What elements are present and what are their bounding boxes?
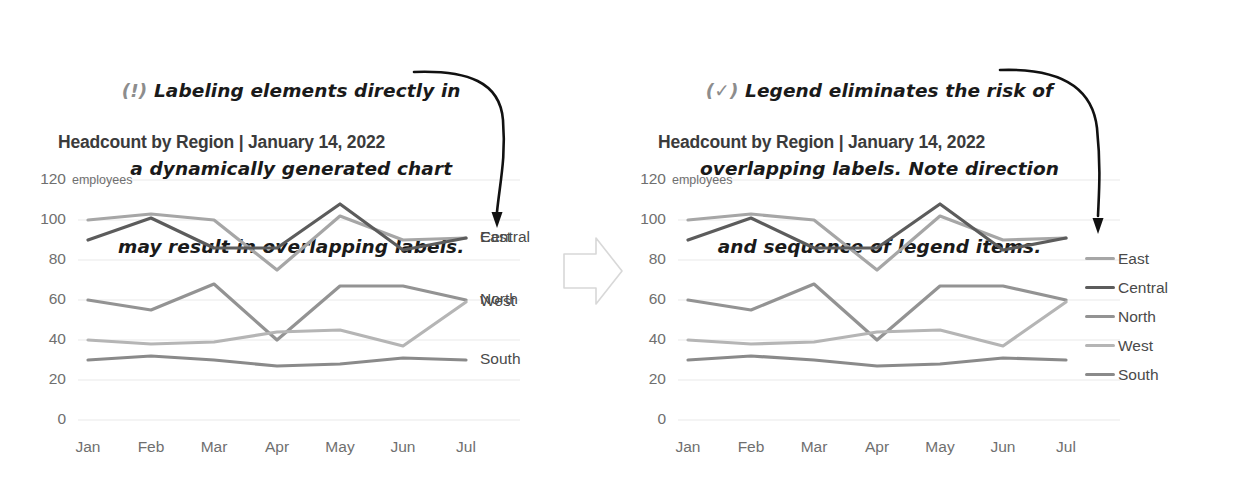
legend-item-north[interactable]: North [1085,302,1168,331]
legend-item-west[interactable]: West [1085,331,1168,360]
x-axis-tick-label: Jul [439,438,493,456]
series-line-central [688,204,1066,250]
series-line-east [688,214,1066,270]
chart-title-left: Headcount by Region | January 14, 2022 [58,132,385,153]
legend-swatch-icon [1085,344,1115,347]
chart-legend: EastCentralNorthWestSouth [1085,244,1168,389]
x-axis-tick-label: Apr [850,438,904,456]
series-line-south [88,356,466,366]
x-axis-tick-label: Mar [787,438,841,456]
x-axis-tick-label: Jun [376,438,430,456]
y-axis-tick-label: 120 [20,170,66,188]
y-axis-tick-label: 60 [20,290,66,308]
x-axis-tick-label: Feb [724,438,778,456]
legend-swatch-icon [1085,257,1115,260]
direct-label-south: South [480,350,521,368]
y-axis-tick-label: 80 [620,250,666,268]
legend-swatch-icon [1085,373,1115,376]
direct-label-central: Central [480,228,530,246]
x-axis-tick-label: Jul [1039,438,1093,456]
x-axis-tick-label: Mar [187,438,241,456]
chart-title-right: Headcount by Region | January 14, 2022 [658,132,985,153]
y-axis-tick-label: 40 [20,330,66,348]
legend-item-east[interactable]: East [1085,244,1168,273]
x-axis-tick-label: Jan [61,438,115,456]
x-axis-tick-label: Jun [976,438,1030,456]
x-axis-tick-label: May [913,438,967,456]
legend-label: North [1118,308,1156,326]
y-axis-tick-label: 60 [620,290,666,308]
y-axis-tick-label: 0 [620,410,666,428]
legend-swatch-icon [1085,286,1115,289]
x-axis-tick-label: Jan [661,438,715,456]
y-axis-tick-label: 20 [620,370,666,388]
y-axis-tick-label: 100 [20,210,66,228]
series-line-south [688,356,1066,366]
plot-area-left: 020406080100120employeesJanFebMarAprMayJ… [20,168,580,458]
y-axis-tick-label: 100 [620,210,666,228]
transition-arrow-icon [562,232,624,310]
legend-label: West [1118,337,1153,355]
legend-label: Central [1118,279,1168,297]
y-axis-tick-label: 120 [620,170,666,188]
x-axis-tick-label: Apr [250,438,304,456]
chart-panel-left: Headcount by Region | January 14, 2022 0… [20,0,580,485]
legend-item-south[interactable]: South [1085,360,1168,389]
slide-canvas: (!) Labeling elements directly in a dyna… [0,0,1244,485]
y-axis-tick-label: 80 [20,250,66,268]
series-line-east [88,214,466,270]
y-axis-unit-label: employees [672,173,732,187]
y-axis-tick-label: 20 [20,370,66,388]
y-axis-unit-label: employees [72,173,132,187]
x-axis-tick-label: May [313,438,367,456]
x-axis-tick-label: Feb [124,438,178,456]
legend-item-central[interactable]: Central [1085,273,1168,302]
y-axis-tick-label: 40 [620,330,666,348]
direct-label-west: West [480,292,515,310]
series-line-central [88,204,466,250]
chart-svg-left [20,168,580,458]
legend-label: South [1118,366,1159,384]
legend-swatch-icon [1085,315,1115,318]
legend-label: East [1118,250,1149,268]
y-axis-tick-label: 0 [20,410,66,428]
chart-panel-right: Headcount by Region | January 14, 2022 0… [620,0,1180,485]
